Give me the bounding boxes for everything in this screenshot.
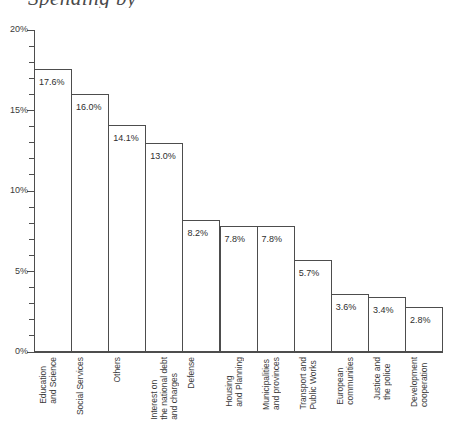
bar-value-label: 17.6% [39,78,65,87]
chart-page: Spending by 0%5%10%15%20% 17.6%16.0%14.1… [0,0,450,435]
bar-value-label: 7.8% [262,235,283,244]
x-axis-line [34,352,443,353]
y-tick-major [27,30,34,31]
y-tick-major [27,110,34,111]
bar [182,220,220,352]
bar [405,307,443,352]
bar-value-label: 3.6% [336,303,357,312]
bar-value-label: 3.4% [373,306,394,315]
bar-value-label: 16.0% [76,103,102,112]
chart-title: Spending by [28,0,228,8]
y-tick-label: 10% [0,186,28,195]
bar [108,125,146,352]
category-label: Transport and Public Works [298,357,318,410]
category-label: Others [112,357,122,383]
y-tick-label: 0% [0,347,28,356]
category-label: Interest on the national debt and charge… [149,357,179,420]
category-label: Social Services [75,357,85,415]
y-tick-major [27,352,34,353]
category-label: Justice and the police [372,357,392,400]
bar [34,69,72,352]
bar-value-label: 7.8% [225,235,246,244]
category-label: Municipalities and provinces [261,357,281,410]
bar-value-label: 8.2% [187,229,208,238]
y-tick-major [27,191,34,192]
y-tick-minor [29,62,34,63]
category-label: Development cooperation [409,357,429,407]
category-label: Housing and Planning [224,357,244,407]
bar [71,94,109,352]
bar-value-label: 5.7% [299,269,320,278]
y-tick-minor [29,46,34,47]
bar-value-label: 2.8% [410,316,431,325]
bar [220,226,258,352]
category-label: Education and Science [38,357,58,404]
bar [145,143,183,352]
y-tick-label: 20% [0,25,28,34]
y-tick-major [27,271,34,272]
category-label: European communities [335,357,355,405]
bar-value-label: 13.0% [150,152,176,161]
category-label: Defense [186,357,196,389]
bar [257,226,295,352]
y-tick-label: 5% [0,267,28,276]
bar-value-label: 14.1% [113,134,139,143]
y-tick-label: 15% [0,106,28,115]
